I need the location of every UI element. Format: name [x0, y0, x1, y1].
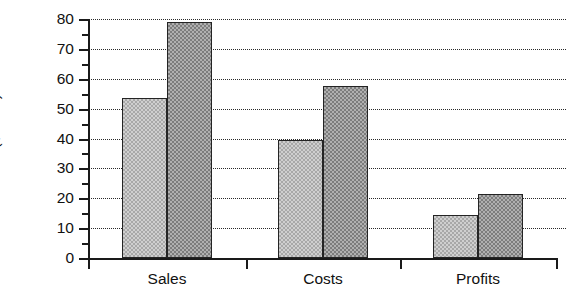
x-axis-label-profits: Profits [400, 270, 556, 288]
y-tick-major [79, 228, 88, 230]
y-tick-label: 60 [30, 71, 74, 87]
y-tick-label: 10 [30, 220, 74, 236]
y-tick-label: 80 [30, 11, 74, 27]
y-tick-major [79, 198, 88, 200]
y-tick-label: 30 [30, 160, 74, 176]
x-axis-line [88, 258, 556, 260]
bar-profits-series-2 [478, 194, 523, 258]
y-tick-major [79, 19, 88, 21]
x-tick [88, 258, 90, 269]
y-tick-label: 50 [30, 101, 74, 117]
x-tick [246, 258, 248, 269]
bars-layer [88, 19, 566, 258]
y-tick-major [79, 139, 88, 141]
y-tick-label: 20 [30, 190, 74, 206]
x-tick [400, 258, 402, 269]
x-tick [556, 258, 558, 269]
bar-sales-series-1 [122, 98, 167, 258]
y-tick-label: 40 [30, 131, 74, 147]
bar-sales-series-2 [167, 22, 212, 258]
y-tick-major [79, 168, 88, 170]
bar-costs-series-2 [323, 86, 368, 258]
y-tick-major [79, 109, 88, 111]
y-tick-major [79, 49, 88, 51]
y-tick-label: 0 [30, 250, 74, 266]
x-axis-label-sales: Sales [88, 270, 246, 288]
bar-chart: Dollars ($1000) 01020304050607080 SalesC… [0, 0, 566, 301]
y-tick-major [79, 258, 88, 260]
bar-costs-series-1 [278, 140, 323, 258]
x-axis-label-costs: Costs [246, 270, 400, 288]
y-tick-major [79, 79, 88, 81]
y-tick-label: 70 [30, 41, 74, 57]
bar-profits-series-1 [433, 215, 478, 258]
y-axis-title-label: Dollars ($1000) [0, 94, 3, 207]
